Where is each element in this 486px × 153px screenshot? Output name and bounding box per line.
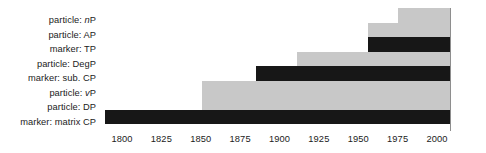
bar-marker-tp	[368, 37, 450, 52]
x-tick-1975: 1975	[387, 134, 408, 145]
x-axis-tick-labels: 180018251850187519001925195019752000	[0, 131, 486, 153]
plot-area	[0, 0, 486, 131]
bar-marker-matrix-cp	[105, 110, 450, 125]
bar-particle-degp	[297, 52, 450, 67]
x-tick-1850: 1850	[190, 134, 211, 145]
bar-particle-ap	[368, 23, 450, 38]
x-tick-1800: 1800	[111, 134, 132, 145]
x-tick-1950: 1950	[348, 134, 369, 145]
bar-particle-vp	[202, 81, 449, 96]
x-tick-2000: 2000	[426, 134, 447, 145]
bar-particle-np	[398, 8, 450, 23]
axis-spine-right	[450, 8, 451, 131]
bar-particle-dp	[202, 95, 449, 110]
x-tick-1925: 1925	[308, 134, 329, 145]
timeline-bar-chart: particle: nP particle: AP marker: TP par…	[0, 0, 486, 153]
x-tick-1875: 1875	[230, 134, 251, 145]
bar-marker-sub-cp	[256, 66, 450, 81]
x-tick-1900: 1900	[269, 134, 290, 145]
x-tick-1825: 1825	[151, 134, 172, 145]
